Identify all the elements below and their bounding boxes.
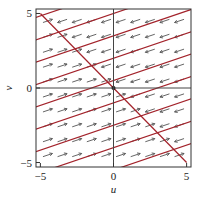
- direction-arrow-icon: [72, 153, 81, 157]
- y-tick-label: 0: [27, 82, 33, 94]
- phase-portrait-chart: −505 −505 u v: [0, 0, 200, 202]
- direction-arrow-icon: [145, 94, 154, 98]
- direction-arrow-icon: [58, 123, 67, 127]
- direction-arrow-icon: [131, 19, 140, 23]
- x-tick-label: 0: [111, 170, 117, 182]
- direction-arrow-icon: [160, 49, 169, 53]
- direction-arrow-icon: [145, 79, 154, 83]
- direction-arrow-icon: [175, 64, 184, 68]
- direction-arrow-icon: [101, 64, 110, 68]
- x-tick-labels: −505: [35, 163, 190, 182]
- direction-arrow-icon: [160, 34, 169, 38]
- direction-arrow-icon: [43, 93, 52, 97]
- direction-arrow-icon: [175, 49, 184, 53]
- direction-arrow-icon: [43, 63, 52, 67]
- direction-arrow-icon: [101, 138, 110, 142]
- x-tick-label: −5: [35, 170, 47, 182]
- direction-arrow-icon: [58, 108, 67, 112]
- direction-arrow-icon: [58, 63, 67, 67]
- direction-arrow-icon: [87, 49, 96, 53]
- direction-arrow-icon: [58, 153, 67, 157]
- direction-arrow-icon: [72, 19, 81, 23]
- direction-arrow-icon: [175, 109, 184, 113]
- trajectory-curve: [26, 28, 200, 88]
- direction-arrow-icon: [87, 78, 96, 82]
- direction-arrow-icon: [145, 34, 154, 38]
- x-axis-label: u: [111, 183, 117, 195]
- direction-arrow-icon: [175, 139, 184, 143]
- direction-arrow-icon: [116, 153, 125, 157]
- direction-arrow-icon: [131, 123, 140, 127]
- direction-arrow-icon: [160, 79, 169, 83]
- direction-arrow-icon: [145, 138, 154, 142]
- direction-arrow-icon: [87, 93, 96, 97]
- direction-arrow-icon: [43, 153, 52, 157]
- y-tick-labels: −505: [20, 7, 40, 168]
- direction-arrow-icon: [116, 49, 125, 53]
- direction-arrow-icon: [160, 94, 169, 98]
- direction-arrow-icon: [116, 108, 125, 112]
- trajectory-curve: [26, 73, 200, 133]
- trajectory-curve: [26, 0, 200, 21]
- direction-arrow-icon: [101, 153, 110, 157]
- direction-arrow-icon: [116, 138, 125, 142]
- direction-arrow-icon: [101, 19, 110, 23]
- direction-arrow-icon: [72, 123, 81, 127]
- direction-arrow-icon: [72, 108, 81, 112]
- x-tick-label: 5: [184, 170, 190, 182]
- direction-arrow-icon: [87, 34, 96, 38]
- direction-arrow-icon: [43, 138, 52, 142]
- y-tick-label: 5: [27, 7, 33, 19]
- direction-arrow-icon: [101, 93, 110, 97]
- direction-arrow-icon: [116, 19, 125, 23]
- direction-arrow-icon: [43, 49, 52, 53]
- direction-arrow-icon: [58, 19, 67, 23]
- direction-arrow-icon: [131, 153, 140, 157]
- trajectory-curve: [26, 0, 200, 43]
- trajectory-curve: [26, 51, 200, 111]
- direction-arrow-icon: [72, 34, 81, 38]
- direction-arrow-icon: [131, 64, 140, 68]
- trajectory-curve: [26, 95, 200, 155]
- direction-arrow-icon: [131, 34, 140, 38]
- y-axis-label: v: [2, 85, 14, 90]
- direction-arrow-icon: [131, 79, 140, 83]
- y-tick-label: −5: [20, 157, 32, 169]
- direction-arrow-icon: [175, 94, 184, 98]
- direction-arrow-icon: [72, 78, 81, 82]
- direction-arrow-icon: [145, 49, 154, 53]
- trajectory-curve: [26, 118, 200, 178]
- direction-arrow-icon: [87, 138, 96, 142]
- direction-arrow-icon: [175, 19, 184, 23]
- direction-arrow-icon: [160, 124, 169, 128]
- direction-arrow-icon: [101, 108, 110, 112]
- direction-arrow-icon: [116, 64, 125, 68]
- direction-arrow-icon: [72, 63, 81, 67]
- direction-arrow-icon: [101, 49, 110, 53]
- direction-arrow-icon: [43, 108, 52, 112]
- direction-arrow-icon: [58, 78, 67, 82]
- direction-arrow-icon: [87, 123, 96, 127]
- trajectory-curve: [26, 6, 200, 66]
